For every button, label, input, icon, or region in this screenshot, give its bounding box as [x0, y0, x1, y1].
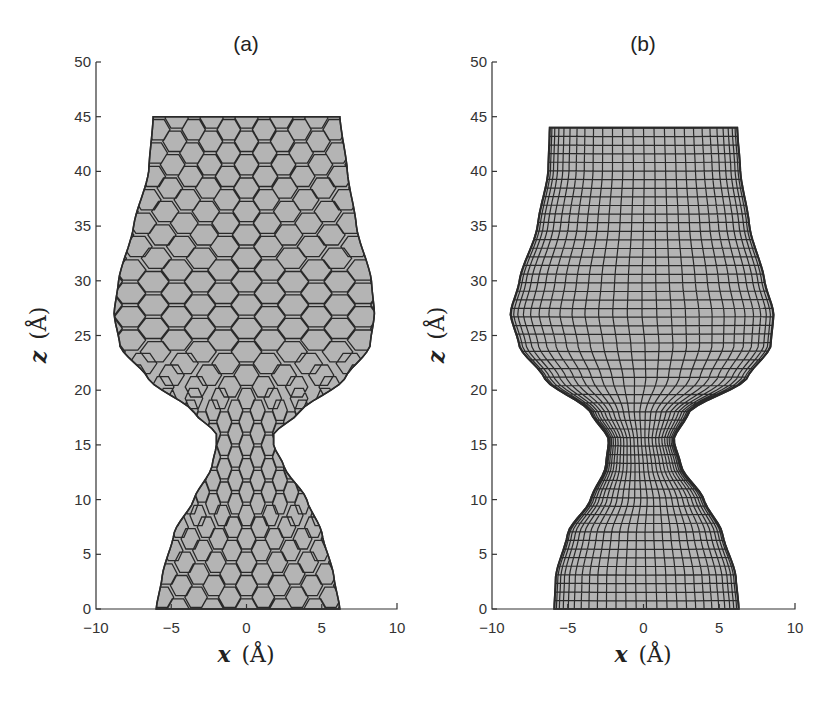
y-tick-label: 5 [479, 545, 487, 562]
y-tick-label: 15 [470, 436, 487, 453]
panel-b-xlabel: x (Å) [613, 640, 671, 667]
y-tick-label: 0 [83, 600, 91, 617]
y-tick-label: 25 [470, 327, 487, 344]
x-tick-label: −5 [559, 619, 576, 636]
y-tick-label: 40 [74, 162, 91, 179]
panel-b: (b) 05101520253035404550−10−50510 x (Å) … [422, 32, 803, 667]
x-tick-label: −10 [83, 619, 108, 636]
y-tick-label: 35 [74, 217, 91, 234]
panel-a: (a) 05101520253035404550−10−50510 x (Å) … [0, 32, 542, 667]
y-tick-label: 15 [74, 436, 91, 453]
x-tick-label: 0 [639, 619, 647, 636]
y-tick-label: 5 [83, 545, 91, 562]
panel-a-title: (a) [233, 32, 259, 55]
x-tick-label: 10 [787, 619, 804, 636]
y-tick-label: 20 [74, 381, 91, 398]
y-tick-label: 50 [74, 53, 91, 70]
figure: (a) 05101520253035404550−10−50510 x (Å) … [0, 0, 838, 701]
y-tick-label: 35 [470, 217, 487, 234]
y-tick-label: 25 [74, 327, 91, 344]
y-tick-label: 20 [470, 381, 487, 398]
y-tick-label: 10 [470, 491, 487, 508]
panel-a-xlabel: x (Å) [216, 640, 274, 667]
panel-b-ylabel: z (Å) [422, 307, 449, 365]
y-tick-label: 30 [74, 272, 91, 289]
panel-a-ylabel: z (Å) [24, 307, 51, 365]
y-tick-label: 40 [470, 162, 487, 179]
y-tick-label: 50 [470, 53, 487, 70]
x-tick-label: −10 [479, 619, 504, 636]
x-tick-label: 10 [389, 619, 406, 636]
x-tick-label: 5 [318, 619, 326, 636]
y-tick-label: 30 [470, 272, 487, 289]
panel-b-title: (b) [630, 32, 656, 55]
panel-b-shape [510, 128, 773, 610]
y-tick-label: 45 [74, 108, 91, 125]
y-tick-label: 0 [479, 600, 487, 617]
x-tick-label: −5 [163, 619, 180, 636]
x-tick-label: 0 [242, 619, 250, 636]
y-tick-label: 10 [74, 491, 91, 508]
x-tick-label: 5 [715, 619, 723, 636]
y-tick-label: 45 [470, 108, 487, 125]
